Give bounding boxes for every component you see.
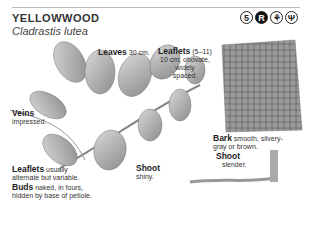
label-shoot-left: Shoot shiny. <box>136 164 160 181</box>
label-leaflets-top: Leaflets (5–11) 10 cm, obovate, widely s… <box>145 47 225 80</box>
label-leaves: Leaves 30 cm. <box>98 48 150 57</box>
label-leaflets-bottom: Leaflets usually alternate but variable. <box>12 165 79 182</box>
label-buds: Buds naked, in fours, hidden by base of … <box>12 183 92 200</box>
label-veins: Veins impressed. <box>12 109 46 126</box>
label-shoot-right: Shoot slender. <box>216 152 247 169</box>
label-bark: Bark smooth, silvery- gray or brown. <box>213 134 283 151</box>
